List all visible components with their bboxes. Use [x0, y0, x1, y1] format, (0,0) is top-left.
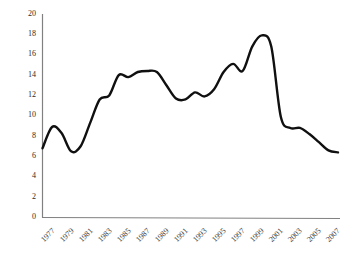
y-tick-label-10: 10: [14, 111, 36, 119]
y-tick-label-2: 2: [14, 193, 36, 201]
y-tick-label-14: 14: [14, 71, 36, 79]
data-line-series: [43, 35, 339, 152]
x-axis-line: [42, 218, 340, 219]
y-tick-label-20: 20: [14, 10, 36, 18]
line-chart: 02468101214161820 1977197919811983198519…: [0, 0, 358, 272]
y-tick-label-6: 6: [14, 152, 36, 160]
y-tick-label-0: 0: [14, 213, 36, 221]
y-tick-label-18: 18: [14, 30, 36, 38]
y-tick-label-16: 16: [14, 50, 36, 58]
y-tick-label-12: 12: [14, 91, 36, 99]
data-series-group: [43, 35, 339, 152]
axes-group: [42, 14, 340, 219]
y-tick-label-8: 8: [14, 132, 36, 140]
y-tick-label-4: 4: [14, 172, 36, 180]
